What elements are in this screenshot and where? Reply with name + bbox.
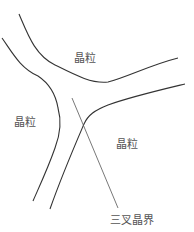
triple-junction-label: 三叉晶界 bbox=[110, 215, 154, 226]
grain-label-right: 晶粒 bbox=[116, 139, 138, 150]
grain-boundary-top bbox=[19, 14, 178, 82]
triple-junction-pointer-line bbox=[72, 98, 118, 208]
grain-label-top: 晶粒 bbox=[74, 53, 96, 64]
grain-label-left: 晶粒 bbox=[14, 117, 36, 128]
